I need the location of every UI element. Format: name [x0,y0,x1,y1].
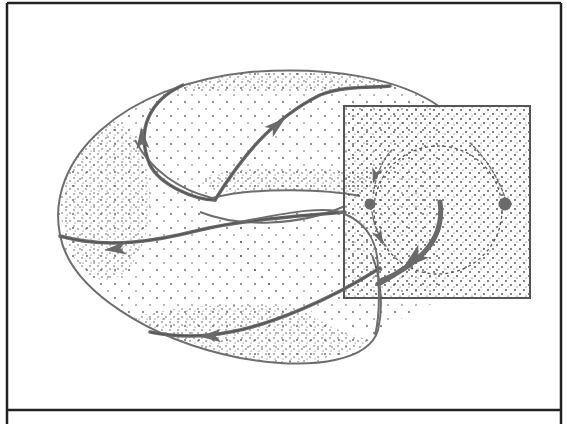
fixed-point-right [499,198,512,211]
figure [0,0,567,424]
torus-diagram [0,0,567,424]
fixed-point-left [365,199,376,210]
